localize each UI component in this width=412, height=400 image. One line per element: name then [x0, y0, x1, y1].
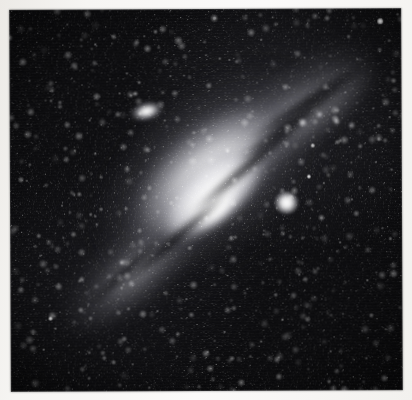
foreground-star [61, 205, 63, 207]
foreground-star [378, 19, 383, 24]
photograph-page [0, 0, 412, 400]
foreground-star [29, 80, 31, 82]
foreground-star [246, 288, 248, 290]
foreground-star [385, 328, 387, 330]
companion-galaxy-right [274, 192, 297, 214]
foreground-star [145, 159, 147, 161]
foreground-star [260, 39, 262, 41]
foreground-star [185, 298, 187, 300]
foreground-star [356, 58, 358, 60]
star-cloud-knot [85, 291, 88, 294]
main-galaxy [9, 8, 403, 392]
foreground-star [49, 317, 52, 320]
star-cloud-knot [317, 111, 323, 117]
foreground-star [169, 75, 171, 77]
foreground-star [208, 29, 210, 31]
foreground-star [375, 161, 377, 163]
foreground-star [311, 144, 314, 147]
photograph-print [9, 8, 403, 392]
foreground-star [39, 255, 41, 257]
foreground-star [143, 35, 145, 37]
star-cloud-knot [138, 249, 142, 253]
foreground-star [132, 363, 134, 365]
star-cloud-knot [120, 260, 125, 265]
foreground-star [298, 274, 300, 276]
foreground-star [207, 351, 209, 353]
star-cloud-knot [95, 285, 99, 289]
foreground-star [89, 120, 91, 122]
foreground-star [330, 350, 332, 352]
star-cloud-knot [154, 242, 157, 245]
foreground-star [289, 87, 291, 89]
foreground-star [68, 372, 70, 374]
foreground-star [26, 180, 28, 182]
star-cloud-knot [264, 139, 268, 143]
foreground-star [351, 198, 353, 200]
star-cloud-knot [245, 150, 249, 154]
star-cloud-knot [349, 123, 354, 128]
